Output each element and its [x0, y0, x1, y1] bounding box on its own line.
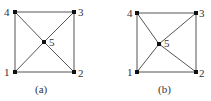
- node-3: [72, 10, 76, 14]
- edge-1-5: [15, 42, 44, 72]
- node-4: [135, 11, 139, 15]
- node-label-4: 4: [4, 6, 10, 18]
- node-label-4: 4: [127, 7, 133, 19]
- node-label-1: 1: [4, 66, 10, 78]
- node-5: [42, 40, 46, 44]
- node-4: [13, 10, 17, 14]
- node-2: [194, 70, 198, 74]
- node-label-2: 2: [78, 67, 84, 79]
- node-1: [13, 70, 17, 74]
- edge-4-5: [15, 12, 44, 42]
- edge-4-5: [137, 13, 159, 44]
- node-5: [157, 42, 161, 46]
- edge-1-5: [137, 44, 159, 72]
- graph-figure-b: 12345(b): [127, 7, 205, 96]
- node-label-3: 3: [199, 7, 205, 19]
- figure-caption: (b): [158, 83, 171, 96]
- node-1: [135, 70, 139, 74]
- node-label-1: 1: [127, 66, 133, 78]
- figure-caption: (a): [35, 83, 48, 96]
- node-3: [194, 11, 198, 15]
- node-2: [72, 70, 76, 74]
- node-label-5: 5: [164, 37, 170, 49]
- node-label-5: 5: [49, 36, 55, 48]
- node-label-2: 2: [199, 67, 205, 79]
- graph-diagram: 12345(a)12345(b): [0, 0, 211, 101]
- graph-figure-a: 12345(a): [4, 6, 84, 96]
- node-label-3: 3: [78, 6, 84, 18]
